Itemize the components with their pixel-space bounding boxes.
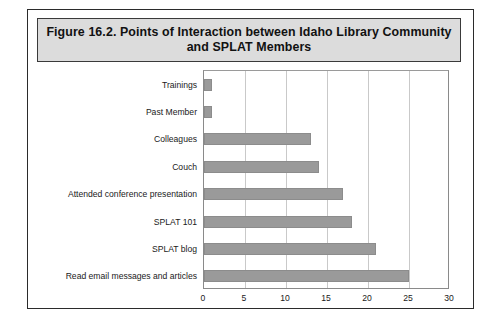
figure-title-banner: Figure 16.2. Points of Interaction betwe… — [37, 18, 461, 62]
bar-row: Couch — [204, 153, 448, 180]
x-tick-label: 25 — [403, 293, 413, 303]
bar — [204, 79, 212, 91]
bar — [204, 188, 343, 200]
bar-row: Colleagues — [204, 126, 448, 153]
bar-row: Attended conference presentation — [204, 181, 448, 208]
x-tick-label: 20 — [362, 293, 372, 303]
category-label: Colleagues — [154, 134, 197, 144]
bar-row: Trainings — [204, 71, 448, 98]
bar — [204, 133, 311, 145]
figure-title-line-2: and SPLAT Members — [187, 40, 312, 54]
plot-area: TrainingsPast MemberColleaguesCouchAtten… — [203, 70, 449, 289]
bar-row: Past Member — [204, 98, 448, 125]
bar — [204, 161, 319, 173]
bar-row: SPLAT 101 — [204, 208, 448, 235]
category-label: Trainings — [162, 80, 197, 90]
category-label: Past Member — [146, 107, 197, 117]
category-label: SPLAT 101 — [154, 217, 197, 227]
x-tick-label: 5 — [242, 293, 247, 303]
bar-row: SPLAT blog — [204, 235, 448, 262]
x-tick-label: 15 — [321, 293, 331, 303]
x-tick-label: 0 — [201, 293, 206, 303]
bar — [204, 216, 352, 228]
x-tick-label: 10 — [280, 293, 290, 303]
x-axis-tick-labels: 051015202530 — [203, 293, 449, 309]
bar-rows: TrainingsPast MemberColleaguesCouchAtten… — [204, 71, 448, 288]
category-label: Couch — [172, 162, 197, 172]
bar-row: Read email messages and articles — [204, 263, 448, 290]
category-label: Attended conference presentation — [68, 189, 197, 199]
category-label: SPLAT blog — [152, 244, 197, 254]
page-title: Figure 16.2. Points of Interaction betwe… — [40, 25, 457, 56]
bar — [204, 243, 376, 255]
figure-frame: Figure 16.2. Points of Interaction betwe… — [27, 9, 474, 309]
bar-chart: TrainingsPast MemberColleaguesCouchAtten… — [28, 64, 473, 308]
bar — [204, 106, 212, 118]
figure-title-line-1: Figure 16.2. Points of Interaction betwe… — [46, 25, 451, 39]
x-tick-label: 30 — [444, 293, 454, 303]
bar — [204, 270, 409, 282]
category-label: Read email messages and articles — [66, 271, 197, 281]
